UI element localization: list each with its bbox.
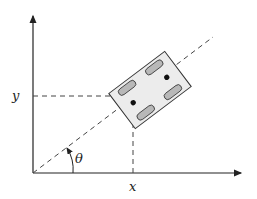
theta-arc [67, 148, 73, 173]
y-axis-label: y [12, 89, 19, 102]
diagram-canvas [0, 0, 257, 199]
theta-label: θ [75, 152, 83, 165]
x-axis-label: x [129, 180, 136, 193]
